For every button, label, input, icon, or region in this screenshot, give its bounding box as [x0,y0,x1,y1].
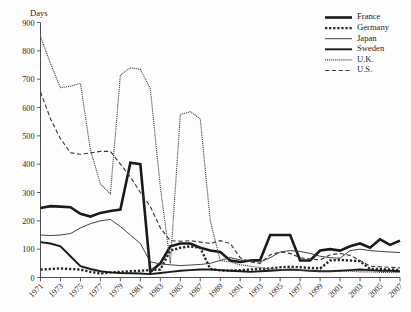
legend-label-uk: U.K. [357,54,374,64]
x-axis-tick-label: 2005 [367,282,385,300]
x-axis-tick-label: 1995 [267,282,285,300]
legend-label-france: France [357,11,381,21]
x-axis: 1971197319751977197919811983198519871989… [27,278,404,300]
y-axis-tick-label: 500 [22,132,34,141]
y-axis-tick-label: 600 [22,104,34,113]
x-axis-tick-label: 1985 [167,282,185,300]
x-axis-tick-label: 1979 [107,282,125,300]
y-axis-tick-label: 700 [22,75,34,84]
x-axis-tick-label: 1971 [27,282,45,300]
x-axis-tick-label: 1991 [227,282,245,300]
x-axis-tick-label: 1975 [67,282,85,300]
series-line-france [41,163,401,272]
y-axis-tick-label: 100 [22,245,34,254]
y-axis-title: Days [30,8,48,18]
y-axis-tick-label: 800 [22,47,34,56]
x-axis-tick-label: 1983 [147,282,165,300]
legend-label-germany: Germany [357,22,390,32]
y-axis: 0100200300400500600700800900 [22,19,40,283]
y-axis-tick-label: 900 [22,19,34,28]
x-axis-tick-label: 1981 [127,282,145,300]
line-chart-canvas: Days 0100200300400500600700800900 197119… [0,0,411,312]
y-axis-title-group: Days [30,8,48,18]
x-axis-tick-label: 1999 [307,282,325,300]
x-axis-tick-label: 1989 [207,282,225,300]
y-axis-tick-label: 200 [22,217,34,226]
x-axis-tick-label: 2007 [387,282,405,300]
x-axis-tick-label: 1973 [47,282,65,300]
x-axis-tick-label: 2001 [327,282,345,300]
series-line-uk [41,37,401,273]
chart-legend: FranceGermanyJapanSwedenU.K.U.S. [325,11,390,74]
y-axis-tick-label: 400 [22,160,34,169]
x-axis-tick-label: 1993 [247,282,265,300]
data-series-group [41,37,401,274]
x-axis-tick-label: 2003 [347,282,365,300]
x-axis-tick-label: 1977 [87,282,105,300]
y-axis-tick-label: 300 [22,189,34,198]
legend-label-sweden: Sweden [357,43,385,53]
x-axis-tick-label: 1997 [287,282,305,300]
legend-label-us: U.S. [357,64,372,74]
legend-label-japan: Japan [357,33,377,43]
series-line-us [41,92,401,268]
chart-figure: Days 0100200300400500600700800900 197119… [0,0,411,312]
x-axis-tick-label: 1987 [187,282,205,300]
y-axis-tick-label: 0 [30,274,34,283]
